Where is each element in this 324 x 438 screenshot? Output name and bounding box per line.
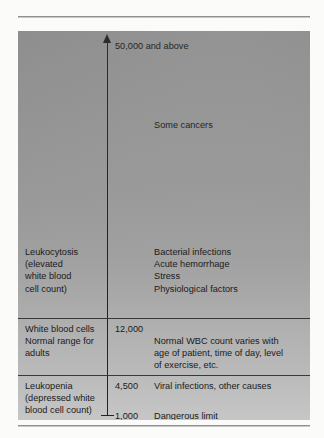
value-dangerous-limit: 1,000: [115, 410, 138, 420]
divider-normal-lower: [18, 375, 310, 376]
value-normal-upper: 12,000: [115, 323, 143, 335]
axis-tick-icon: [101, 415, 114, 416]
notes-normal-range: Normal WBC count varies with age of pati…: [154, 335, 283, 372]
notes-dangerous-limit: Dangerous limit: [154, 410, 218, 420]
label-normal-range: White blood cells Normal range for adult…: [25, 323, 94, 360]
top-horizontal-rule: [18, 16, 310, 18]
axis-top-label: 50,000 and above: [115, 40, 189, 52]
bottom-horizontal-rule: [18, 425, 310, 427]
vertical-axis-line: [107, 41, 108, 416]
value-normal-lower: 4,500: [115, 380, 138, 392]
label-leukocytosis: Leukocytosis (elevated white blood cell …: [25, 246, 78, 295]
notes-leukocytosis-causes: Bacterial infections Acute hemorrhage St…: [154, 246, 238, 295]
notes-leukopenia-causes: Viral infections, other causes: [154, 380, 271, 392]
divider-normal-upper: [18, 318, 310, 319]
wbc-count-figure: 50,000 and above Some cancers Leukocytos…: [18, 31, 310, 420]
note-some-cancers: Some cancers: [154, 119, 213, 131]
label-leukopenia: Leukopenia (depressed white blood cell c…: [25, 380, 95, 417]
